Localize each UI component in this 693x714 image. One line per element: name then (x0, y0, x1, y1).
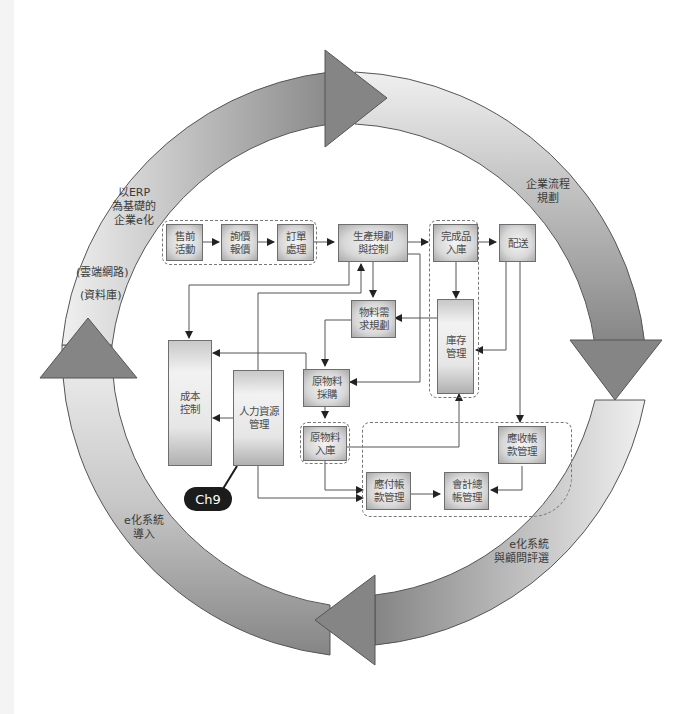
box-finished[interactable]: 完成品入庫 (433, 224, 478, 262)
box-order[interactable]: 訂單處理 (277, 224, 314, 261)
stage-erp-line3: 企業e化 (112, 214, 156, 228)
cycle-diagram (0, 0, 693, 714)
box-delivery[interactable]: 配送 (499, 224, 536, 262)
box-raw-in[interactable]: 原物料入庫 (303, 426, 347, 461)
stage-erp-line1: 以ERP (112, 186, 156, 200)
stage-import-line1: e化系統 (124, 514, 164, 528)
box-gl[interactable]: 會計總帳管理 (444, 472, 489, 510)
arc-process (355, 72, 645, 345)
stage-erp-line2: 為基礎的 (112, 200, 156, 214)
stage-db-label: (資料庫) (80, 289, 122, 303)
box-purchase[interactable]: 原物料採購 (303, 369, 350, 407)
box-ar[interactable]: 應收帳款管理 (498, 426, 546, 464)
box-hr[interactable]: 人力資源管理 (233, 370, 284, 466)
arrowhead-left (40, 318, 137, 378)
box-production[interactable]: 生產規劃與控制 (338, 224, 408, 262)
box-quote[interactable]: 詢價報價 (221, 224, 258, 261)
stage-select-label: e化系統 與顧問評選 (494, 538, 549, 566)
stage-erp-label: 以ERP 為基礎的 企業e化 (112, 186, 156, 228)
stage-select-line2: 與顧問評選 (494, 552, 549, 566)
arrowhead-right (570, 340, 662, 400)
stage-import-line2: 導入 (124, 528, 164, 542)
box-presale[interactable]: 售前活動 (166, 224, 203, 261)
box-cost[interactable]: 成本控制 (168, 340, 212, 466)
stage-select-line1: e化系統 (494, 538, 549, 552)
stage-import-label: e化系統 導入 (124, 514, 164, 542)
stage-process-line2: 規劃 (526, 192, 570, 206)
stage-process-label: 企業流程 規劃 (526, 178, 570, 206)
chapter-badge[interactable]: Ch9 (184, 487, 232, 511)
box-inventory[interactable]: 庫存管理 (437, 299, 474, 394)
arrowhead-top (325, 50, 387, 147)
stage-cloud-label: (雲端網路) (76, 266, 129, 280)
arc-erp (62, 72, 330, 345)
box-ap[interactable]: 應付帳款管理 (366, 472, 411, 510)
stage-process-line1: 企業流程 (526, 178, 570, 192)
box-mrp[interactable]: 物料需求規劃 (351, 300, 396, 338)
